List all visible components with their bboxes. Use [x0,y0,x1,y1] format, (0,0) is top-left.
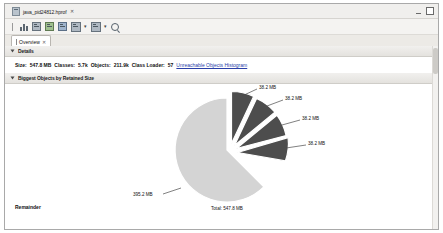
scrollbar-thumb[interactable] [433,48,438,74]
pie-total-label: Total: 547.8 MB [211,206,243,211]
pie-label-remainder: 395.2 MB [133,192,153,197]
overview-icon [16,39,17,45]
editor-tab-label: java_pid24812.hprof [23,9,66,15]
minimize-icon[interactable] [416,13,421,14]
overview-content: Details Size: 547.8 MB Classes: 5.7k Obj… [5,46,438,229]
search-icon[interactable] [111,23,119,31]
chevron-down-icon[interactable]: ▾ [84,24,87,29]
stat-label-class-loader: Class Loader: [132,62,165,68]
section-title: Details [18,48,34,54]
leader-line-remainder [163,188,181,194]
editor-tab-hprof[interactable]: java_pid24812.hprof ✕ [10,6,78,17]
maximize-icon[interactable] [426,7,434,15]
stat-label-classes: Classes: [54,62,75,68]
top-consumers-icon[interactable] [58,22,67,31]
stat-label-objects: Objects: [91,62,111,68]
leak-suspects-icon[interactable] [45,22,54,31]
close-icon[interactable]: ✕ [42,39,46,45]
unreachable-objects-histogram-link[interactable]: Unreachable Objects Histogram [176,62,247,68]
main-toolbar: ▾ ▾ [5,19,438,35]
stat-label-size: Size: [15,62,27,68]
window-titlebar: java_pid24812.hprof ✕ [5,4,438,19]
pie-label-1: 38.2 MB [259,85,276,90]
pie-label-2: 38.2 MB [285,96,302,101]
close-icon[interactable]: ✕ [70,9,74,14]
stat-value-classes: 5.7k [78,62,88,68]
histogram-icon[interactable] [19,22,28,31]
stat-value-size: 547.8 MB [30,62,52,68]
leader-line-2 [267,100,283,106]
memory-analyzer-window: java_pid24812.hprof ✕ ▾ ▾ Overview ✕ [4,3,439,230]
stat-value-objects: 211.9k [114,62,129,68]
section-header-biggest-objects[interactable]: Biggest Objects by Retained Size [5,73,438,84]
vertical-scrollbar[interactable] [432,46,438,229]
chevron-down-icon[interactable] [11,50,15,53]
tab-label: Overview [19,39,40,45]
pie-label-3: 38.2 MB [302,116,319,121]
stat-value-class-loader: 57 [168,62,174,68]
pie-chart-svg: 38.2 MB 38.2 MB 38.2 MB 38.2 MB 395.2 MB… [5,84,438,216]
dominator-tree-icon[interactable] [32,22,41,31]
heap-statistics-row: Size: 547.8 MB Classes: 5.7k Objects: 21… [5,57,438,73]
window-controls [416,7,434,15]
heap-dump-file-icon [12,7,20,16]
chevron-down-icon-2[interactable]: ▾ [104,24,107,29]
inspector-icon[interactable] [91,22,101,32]
pie-label-4: 38.2 MB [308,141,325,146]
remainder-label: Remainder [15,204,41,210]
leader-line-3 [282,120,300,125]
toolbar-divider [12,23,13,31]
section-title: Biggest Objects by Retained Size [18,75,94,81]
chevron-down-icon[interactable] [11,77,15,80]
query-browser-icon[interactable] [71,22,81,32]
retained-size-pie-chart[interactable]: 38.2 MB 38.2 MB 38.2 MB 38.2 MB 395.2 MB… [5,84,438,216]
section-header-details[interactable]: Details [5,46,438,57]
